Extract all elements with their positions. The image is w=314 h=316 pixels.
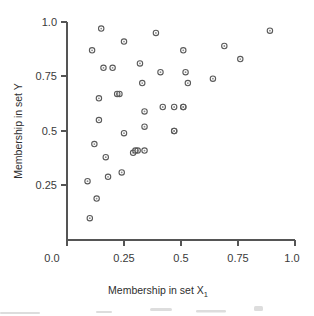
data-point — [185, 80, 190, 85]
data-point-core — [144, 126, 146, 128]
data-point-core — [98, 97, 100, 99]
scatter-plot-figure: 1.0 0.75 0.5 0.25 0.0 0.25 0.5 0.75 1.0 … — [0, 0, 314, 316]
data-point-core — [87, 180, 89, 182]
x-tick-label-0-25: 0.25 — [113, 252, 134, 264]
data-point — [101, 65, 106, 70]
data-point-core — [96, 198, 98, 200]
data-point — [96, 117, 101, 122]
x-axis-title: Membership in set X1 — [108, 284, 208, 299]
data-point-core — [182, 49, 184, 51]
data-points-layer — [85, 26, 273, 221]
data-point-core — [155, 32, 157, 34]
data-point — [142, 109, 147, 114]
data-point — [181, 104, 186, 109]
data-point-core — [187, 82, 189, 84]
x-axis-ticks — [67, 240, 295, 246]
data-point-core — [182, 106, 184, 108]
data-point-core — [123, 132, 125, 134]
data-point — [142, 124, 147, 129]
y-tick-label-1-0: 1.0 — [42, 16, 57, 28]
data-point — [103, 154, 108, 159]
data-point-core — [91, 49, 93, 51]
data-point-core — [162, 106, 164, 108]
data-point — [210, 76, 215, 81]
y-tick-label-0-5: 0.5 — [42, 125, 57, 137]
data-point-core — [239, 58, 241, 60]
data-point-core — [103, 67, 105, 69]
data-point-core — [139, 63, 141, 65]
data-point — [153, 30, 158, 35]
data-point-core — [144, 150, 146, 152]
data-point-core — [105, 156, 107, 158]
x-tick-label-0-0: 0.0 — [44, 252, 59, 264]
plot-svg: 1.0 0.75 0.5 0.25 0.0 0.25 0.5 0.75 1.0 … — [0, 0, 314, 316]
x-axis-title-subscript: 1 — [204, 290, 208, 299]
data-point-core — [100, 28, 102, 30]
data-point — [171, 128, 176, 133]
data-point — [222, 43, 227, 48]
y-tick-label-0-75: 0.75 — [36, 70, 57, 82]
data-point-core — [119, 93, 121, 95]
x-tick-label-0-5: 0.5 — [173, 252, 188, 264]
data-point — [89, 48, 94, 53]
x-axis-tick-labels: 0.0 0.25 0.5 0.75 1.0 — [44, 252, 299, 264]
data-point-core — [144, 110, 146, 112]
data-point-core — [212, 78, 214, 80]
data-point-core — [269, 30, 271, 32]
data-point — [99, 26, 104, 31]
data-point — [137, 61, 142, 66]
data-point — [238, 56, 243, 61]
data-point-core — [89, 217, 91, 219]
x-tick-label-0-75: 0.75 — [227, 252, 248, 264]
data-point-core — [93, 143, 95, 145]
data-point-core — [160, 71, 162, 73]
data-point — [94, 196, 99, 201]
data-point — [92, 141, 97, 146]
data-point — [160, 104, 165, 109]
y-tick-label-0-25: 0.25 — [36, 179, 57, 191]
data-point — [267, 28, 272, 33]
data-point-core — [121, 172, 123, 174]
data-point — [171, 104, 176, 109]
y-axis-tick-labels: 1.0 0.75 0.5 0.25 — [36, 16, 57, 191]
page-smudge — [0, 306, 263, 314]
data-point-core — [135, 150, 137, 152]
data-point — [110, 65, 115, 70]
data-point-core — [112, 67, 114, 69]
data-point — [121, 130, 126, 135]
data-point — [121, 39, 126, 44]
y-axis-title: Membership in set Y — [12, 83, 24, 179]
data-point-core — [123, 41, 125, 43]
data-point — [183, 69, 188, 74]
data-point — [105, 174, 110, 179]
data-point-core — [98, 119, 100, 121]
data-point — [87, 216, 92, 221]
data-point-core — [223, 45, 225, 47]
x-tick-label-1-0: 1.0 — [284, 252, 299, 264]
data-point — [85, 178, 90, 183]
data-point-core — [173, 106, 175, 108]
x-axis-title-text: Membership in set X — [108, 284, 204, 296]
data-point — [158, 69, 163, 74]
y-axis-ticks — [61, 22, 67, 185]
data-point — [119, 170, 124, 175]
data-point — [142, 148, 147, 153]
data-point-core — [141, 82, 143, 84]
data-point-core — [107, 176, 109, 178]
data-point-core — [173, 130, 175, 132]
data-point — [140, 80, 145, 85]
data-point — [181, 48, 186, 53]
data-point-core — [185, 71, 187, 73]
data-point — [96, 96, 101, 101]
